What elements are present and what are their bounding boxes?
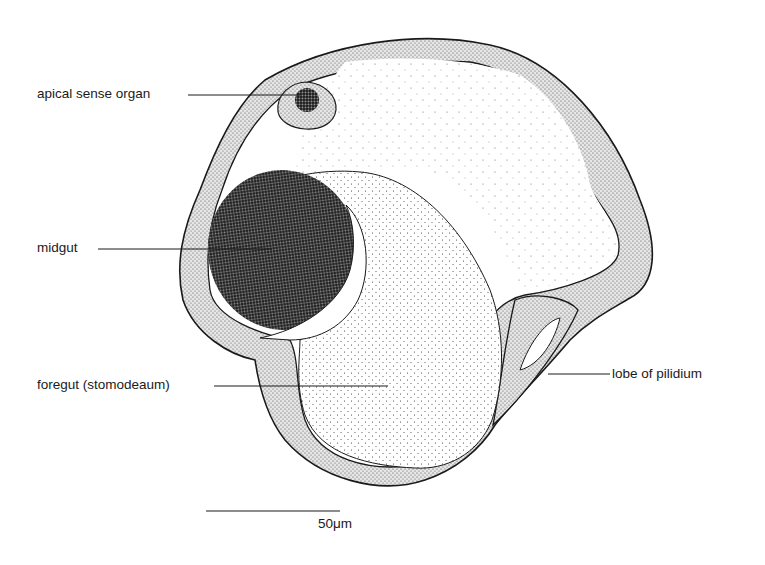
label-apical-sense-organ: apical sense organ — [37, 86, 150, 102]
label-foregut: foregut (stomodeaum) — [37, 377, 170, 393]
label-midgut: midgut — [37, 240, 78, 256]
pilidium-larva-diagram — [0, 0, 765, 565]
label-lobe-of-pilidium: lobe of pilidium — [612, 366, 702, 382]
scale-bar-label: 50μm — [318, 516, 352, 532]
